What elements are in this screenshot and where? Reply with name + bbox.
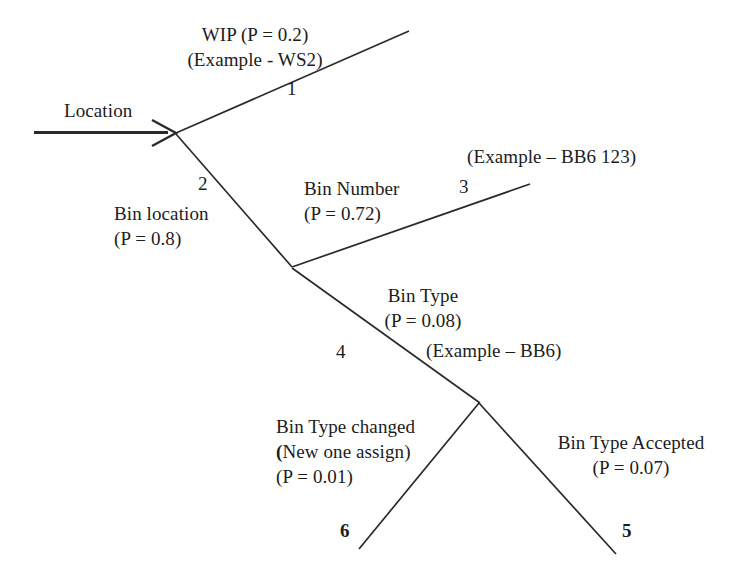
branch-number-6: 6 [340,520,350,542]
branch-label-bin-type-changed: Bin Type changed (New one assign) (P = 0… [276,414,415,489]
branch-label-bin-type-changed-line1: Bin Type changed [276,414,415,439]
branch-number-3: 3 [459,176,469,198]
diagram-canvas: Location WIP (P = 0.2) (Example - WS2) 1… [0,0,736,580]
example-label-bb6-123: (Example – BB6 123) [467,145,636,169]
branch-label-bin-type-accepted-line1: Bin Type Accepted [538,430,724,455]
branch-number-5: 5 [622,520,632,542]
branch-label-bin-type-changed-line2-text: New one assign) [282,441,410,462]
branch-number-4: 4 [336,341,346,363]
branch-label-bin-type-line2: (P = 0.08) [361,308,485,333]
branch-label-bin-location-line1: Bin location [114,201,209,226]
branch-label-bin-type-accepted-line2: (P = 0.07) [538,455,724,480]
branch-label-bin-type-accepted: Bin Type Accepted (P = 0.07) [538,430,724,480]
branch-label-bin-type: Bin Type (P = 0.08) [361,283,485,333]
branch-number-2: 2 [198,173,208,195]
branch-label-bin-number: Bin Number (P = 0.72) [304,176,399,226]
branch-number-1: 1 [287,78,297,100]
branch-label-wip-line1: WIP (P = 0.2) [139,22,371,47]
branch-label-bin-type-changed-line3: (P = 0.01) [276,464,415,489]
branch-label-bin-location: Bin location (P = 0.8) [114,201,209,251]
root-label-location: Location [64,99,132,123]
branch-label-bin-number-line2: (P = 0.72) [304,201,399,226]
branch-label-bin-location-line2: (P = 0.8) [114,226,209,251]
branch-label-wip-line2: (Example - WS2) [139,47,371,72]
example-label-bb6: (Example – BB6) [426,339,562,363]
branch-label-bin-type-line1: Bin Type [361,283,485,308]
root-arrow [34,120,176,146]
branch-label-bin-type-changed-line2: (New one assign) [276,439,415,464]
branch-label-bin-number-line1: Bin Number [304,176,399,201]
branch-label-wip: WIP (P = 0.2) (Example - WS2) [139,22,371,72]
